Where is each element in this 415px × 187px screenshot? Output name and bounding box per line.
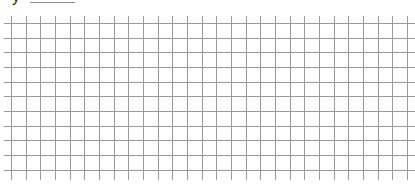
- graph-paper-grid: [0, 0, 415, 187]
- grid-lines: [0, 0, 415, 187]
